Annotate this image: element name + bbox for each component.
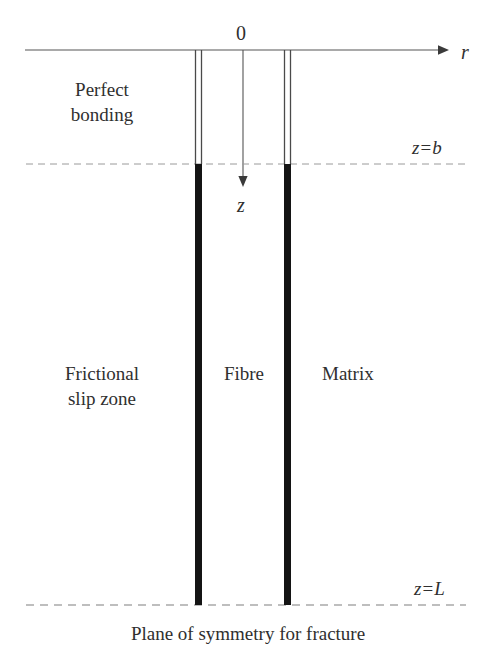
- frictional-slip-line-2: slip zone: [28, 387, 176, 412]
- region-label-fibre: Fibre: [213, 362, 275, 387]
- z-b-value: b: [432, 137, 442, 158]
- fibre-matrix-schematic-figure: 0 r z Perfect bonding Frictional slip zo…: [0, 0, 496, 663]
- r-axis-label: r: [461, 39, 469, 65]
- r-axis: [25, 45, 449, 55]
- perfect-bonding-line-2: bonding: [38, 103, 166, 128]
- z-axis-label: z: [237, 192, 245, 218]
- z-L-value: L: [434, 578, 445, 599]
- z-axis-arrowhead: [238, 176, 247, 187]
- z-axis: [238, 50, 247, 187]
- z-L-equals: =: [421, 578, 434, 599]
- r-axis-arrowhead: [438, 45, 449, 55]
- z-equals-L-label: z=L: [414, 577, 445, 602]
- z-b-equals: =: [419, 137, 432, 158]
- fibre-left-wall-slip: [195, 164, 202, 605]
- z-equals-b-label: z=b: [412, 136, 442, 161]
- region-label-perfect-bonding: Perfect bonding: [38, 78, 166, 127]
- region-label-matrix: Matrix: [322, 362, 374, 387]
- region-label-frictional-slip-zone: Frictional slip zone: [28, 362, 176, 411]
- fibre-left-wall-bonded: [196, 50, 202, 164]
- fibre-right-wall-bonded: [285, 50, 291, 164]
- fibre-right-wall-slip: [284, 164, 291, 605]
- origin-label: 0: [236, 20, 246, 46]
- perfect-bonding-line-1: Perfect: [38, 78, 166, 103]
- frictional-slip-line-1: Frictional: [28, 362, 176, 387]
- figure-caption: Plane of symmetry for fracture: [0, 622, 496, 647]
